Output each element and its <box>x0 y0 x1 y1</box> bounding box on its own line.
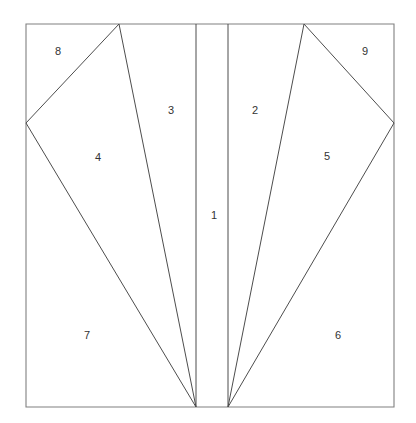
diagram-canvas: 1 2 3 4 5 6 7 8 9 <box>0 0 416 423</box>
region-label-3: 3 <box>168 104 174 116</box>
region-label-1: 1 <box>211 209 217 221</box>
region-label-5: 5 <box>324 150 330 162</box>
region-label-4: 4 <box>95 151 101 163</box>
region-label-2: 2 <box>252 104 258 116</box>
region-label-7: 7 <box>84 329 90 341</box>
region-label-8: 8 <box>55 45 61 57</box>
geometric-partition-figure: 1 2 3 4 5 6 7 8 9 <box>0 0 416 423</box>
region-label-9: 9 <box>362 45 368 57</box>
region-label-6: 6 <box>335 329 341 341</box>
